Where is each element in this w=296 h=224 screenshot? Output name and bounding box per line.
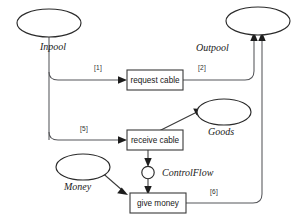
place-goods-label: Goods <box>208 126 234 137</box>
edge-5-path <box>49 132 120 140</box>
edge-money-to-give-arrowhead <box>117 187 128 195</box>
edge-2-label: [2] <box>198 64 206 72</box>
transition-request-cable-label: request cable <box>130 76 180 85</box>
place-controlflow[interactable] <box>142 166 154 178</box>
place-goods[interactable] <box>197 99 251 125</box>
edge-1-path <box>49 72 120 80</box>
place-money[interactable] <box>56 154 110 180</box>
diagram-canvas: Inpool Outpool Goods Money ControlFlow r… <box>0 0 296 224</box>
edge-receive-to-controlflow-arrowhead <box>144 158 151 167</box>
edge-5-arrowhead <box>118 136 127 143</box>
petri-net-svg: Inpool Outpool Goods Money ControlFlow r… <box>0 0 296 224</box>
transition-give-money-label: give money <box>137 199 180 208</box>
place-money-label: Money <box>63 181 92 192</box>
edge-5-label: [5] <box>80 125 88 133</box>
place-controlflow-label: ControlFlow <box>162 167 214 178</box>
transition-receive-cable-label: receive cable <box>131 136 180 145</box>
edge-6-label: [6] <box>210 188 218 196</box>
place-inpool-label: Inpool <box>39 41 66 52</box>
edge-1-arrowhead <box>118 76 127 83</box>
edge-1-label: [1] <box>94 64 102 72</box>
place-outpool[interactable] <box>226 7 290 35</box>
place-outpool-label: Outpool <box>196 42 229 53</box>
place-inpool[interactable] <box>17 9 81 37</box>
